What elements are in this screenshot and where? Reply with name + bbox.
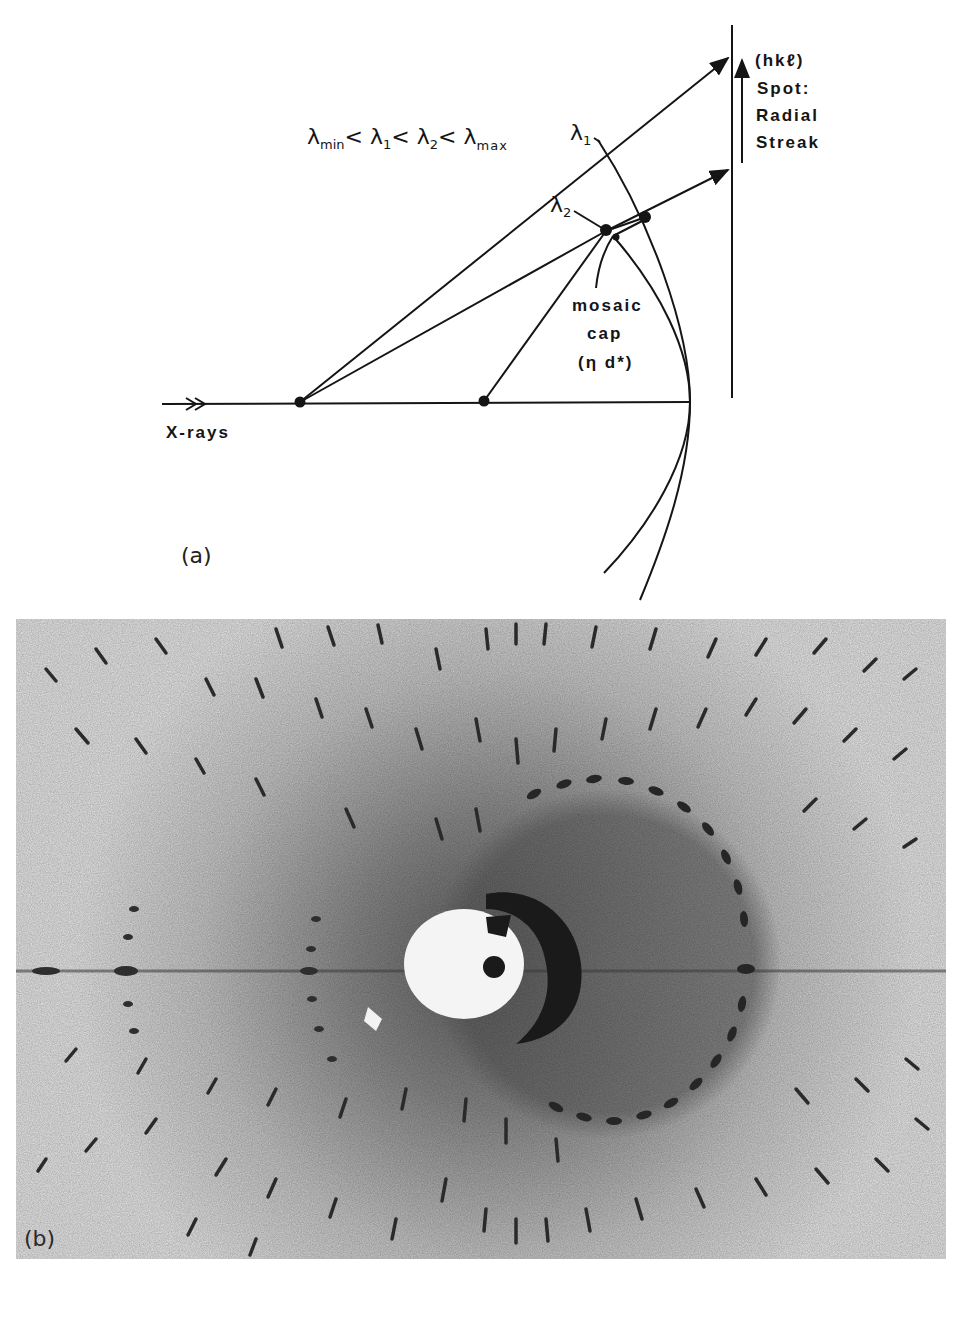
laue-pattern-image: [16, 619, 946, 1259]
panel-a-diagram: λmin< λ1< λ2< λmax λ1 λ2 (hkℓ) Spot: Rad…: [0, 0, 966, 610]
lambda2-label: λ2: [550, 194, 571, 216]
mosaic-cap-label-line1: mosaic: [572, 297, 643, 314]
sphere-center-2: [479, 396, 490, 407]
xrays-label: X-rays: [166, 424, 230, 441]
hkl-spot-label-line2: Spot:: [757, 80, 810, 97]
mosaic-cap-label-line2: cap: [587, 325, 622, 342]
diffracted-ray-1: [300, 58, 728, 402]
lambda1-label: λ1: [570, 122, 591, 144]
mosaic-cap-label-line3: (η d*): [578, 354, 633, 371]
panel-b-tag: (b): [24, 1226, 55, 1251]
incident-beam-line: [162, 402, 690, 404]
reciprocal-point-lambda2: [600, 224, 612, 236]
ewald-sphere-lambda2: [604, 236, 690, 573]
wavelength-inequality-label: λmin< λ1< λ2< λmax: [307, 126, 508, 148]
hkl-spot-label-line4: Streak: [756, 134, 820, 151]
ewald-construction-drawing: [0, 0, 966, 610]
hkl-spot-label-line1: (hkℓ): [755, 52, 804, 69]
mosaic-cap-pointer: [596, 236, 613, 288]
beam-stop-dot: [483, 956, 505, 978]
diffracted-ray-2: [606, 170, 728, 231]
reciprocal-point-lambda1: [639, 211, 651, 223]
panel-b-laue-photograph: (b): [16, 619, 946, 1259]
hkl-spot-label-line3: Radial: [756, 107, 819, 124]
sphere-center-1: [295, 397, 306, 408]
panel-a-tag: (a): [181, 545, 212, 567]
